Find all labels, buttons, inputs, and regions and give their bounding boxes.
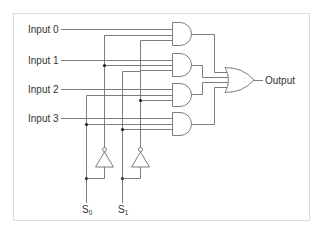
junction-dot <box>85 123 88 126</box>
and-gate-0-icon <box>173 23 192 46</box>
junction-dot <box>121 128 124 131</box>
input-2-label: Input 2 <box>28 84 59 95</box>
input-0-label: Input 0 <box>28 24 59 35</box>
and-gate-1-icon <box>173 54 192 77</box>
inversion-bubble-icon <box>103 148 107 152</box>
multiplexer-diagram: Input 0 Input 1 Input 2 Input 3 <box>0 0 313 233</box>
input-3-label: Input 3 <box>28 113 59 124</box>
output-label: Output <box>265 75 295 86</box>
inversion-bubble-icon <box>139 148 143 152</box>
and-gate-2-icon <box>173 84 192 107</box>
junction-dot <box>103 64 106 67</box>
junction-dot <box>139 99 142 102</box>
input-1-label: Input 1 <box>28 55 59 66</box>
and-gate-3-icon <box>173 113 192 136</box>
